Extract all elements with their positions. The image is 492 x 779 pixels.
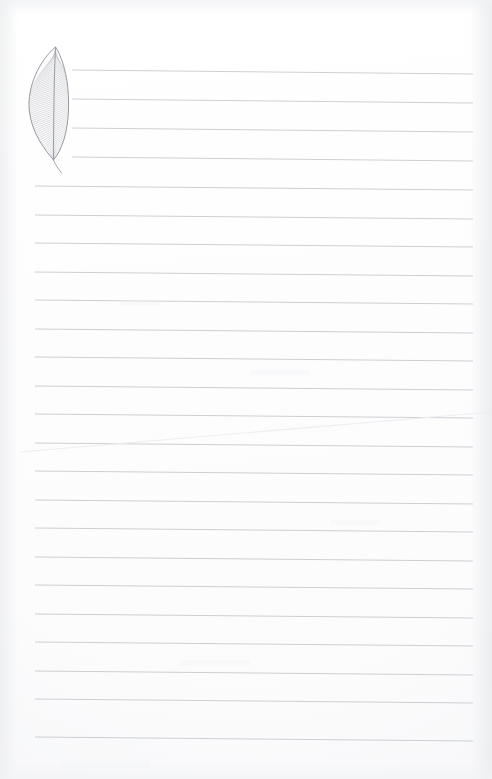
notepaper-page (0, 0, 492, 779)
scan-smudge-5 (60, 760, 150, 768)
scan-smudge-1 (120, 300, 160, 306)
scan-smudge-2 (250, 370, 310, 375)
diagonal-scan-crease (20, 412, 492, 452)
scan-smudge-3 (330, 520, 380, 525)
scan-smudge-4 (180, 660, 250, 666)
scan-smudges (60, 300, 380, 768)
scan-artifacts-svg (0, 0, 492, 779)
scan-artifacts-layer (0, 0, 492, 779)
